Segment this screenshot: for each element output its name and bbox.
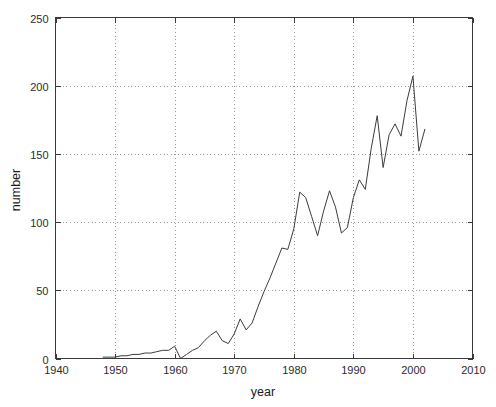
figure-container: 19401950196019701980199020002010 0501001… [0, 0, 496, 407]
x-tick-label: 1950 [103, 364, 127, 376]
x-tick-label: 1970 [222, 364, 246, 376]
x-tick-label: 1990 [341, 364, 365, 376]
y-tick-label: 200 [30, 81, 48, 93]
chart-background [0, 0, 496, 407]
y-tick-label: 50 [36, 285, 48, 297]
y-tick-label: 100 [30, 217, 48, 229]
x-tick-label: 2000 [401, 364, 425, 376]
y-tick-label: 150 [30, 149, 48, 161]
y-tick-label: 250 [30, 13, 48, 25]
line-chart: 19401950196019701980199020002010 0501001… [0, 0, 496, 407]
y-tick-label: 0 [42, 354, 48, 366]
x-tick-label: 1980 [282, 364, 306, 376]
y-axis-title: number [9, 169, 23, 211]
x-tick-label: 2010 [461, 364, 485, 376]
x-tick-label: 1960 [163, 364, 187, 376]
x-axis-title: year [251, 385, 275, 399]
